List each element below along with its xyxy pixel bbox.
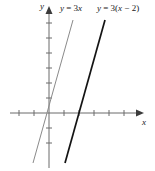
line-y-equals-3x-minus-2 — [65, 20, 105, 163]
y-axis-arrow-icon — [46, 6, 53, 14]
equation-label-line2-eq: = 3( — [101, 3, 118, 13]
y-axis-label: y — [40, 2, 44, 11]
equation-label-line2-suffix: − 2) — [122, 3, 139, 13]
line-y-equals-3x — [33, 20, 73, 163]
equation-label-line2: y = 3(x − 2) — [97, 4, 139, 13]
coordinate-plane — [0, 0, 155, 171]
equation-label-line1-eq: = 3 — [64, 3, 78, 13]
equation-label-line1: y = 3x — [60, 4, 82, 13]
x-axis-arrow-icon — [136, 110, 144, 117]
graph-figure: y = 3x y = 3(x − 2) y x — [0, 0, 155, 171]
equation-label-line1-x: x — [78, 3, 82, 13]
x-axis-label: x — [142, 118, 146, 127]
